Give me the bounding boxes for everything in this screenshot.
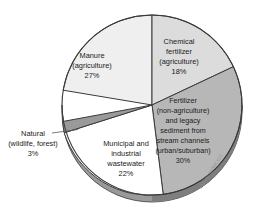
manure-line-2: (agriculture) (72, 61, 111, 70)
chemical-line-2: fertilizer (166, 47, 192, 56)
natural-line-2: (wildlife, forest) (8, 139, 58, 148)
pie-chart-svg: Manure (agriculture) 27% Chemical fertil… (0, 0, 255, 211)
fert-line-1: Fertilizer (169, 96, 197, 105)
fert-line-2: (non-agriculture) (157, 106, 210, 115)
label-natural-wildlife-forest: Natural (wildlife, forest) 3% (8, 129, 58, 158)
fert-line-3: and legacy (166, 116, 201, 125)
fert-percent: 30% (176, 156, 191, 165)
manure-percent: 27% (85, 71, 100, 80)
muni-line-3: wastewater (106, 159, 145, 168)
fert-line-6: (urban/suburban) (155, 146, 210, 155)
fert-line-4: sediment from (160, 126, 206, 135)
natural-percent: 3% (28, 149, 39, 158)
chemical-line-3: (agriculture) (159, 57, 198, 66)
muni-percent: 22% (119, 169, 134, 178)
pie-chart-figure: Manure (agriculture) 27% Chemical fertil… (0, 0, 255, 211)
muni-line-2: industrial (111, 149, 141, 158)
label-fertilizer-nonag-legacy-sediment: Fertilizer (non-agriculture) and legacy … (155, 96, 210, 165)
natural-line-1: Natural (21, 129, 45, 138)
manure-line-1: Manure (79, 51, 104, 60)
chemical-line-1: Chemical (164, 37, 195, 46)
muni-line-1: Municipal and (103, 139, 149, 148)
fert-line-5: stream channels (157, 136, 210, 145)
chemical-percent: 18% (172, 67, 187, 76)
